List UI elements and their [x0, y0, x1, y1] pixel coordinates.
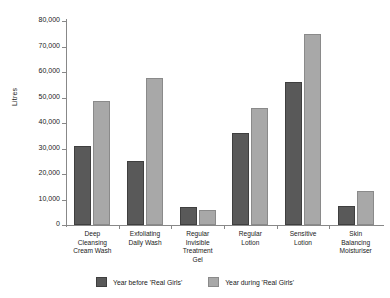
bar [338, 206, 355, 225]
category-label: DeepCleansingCream Wash [66, 230, 119, 264]
y-tick-label: 20,000 [39, 169, 60, 176]
category-label: ExfoliatingDaily Wash [119, 230, 172, 264]
bar [251, 108, 268, 225]
category-label-line: Gel [172, 256, 223, 265]
y-tick-label: 70,000 [39, 42, 60, 49]
category-label-line: Skin [330, 230, 381, 239]
legend-item: Year before 'Real Girls' [96, 277, 182, 287]
category-label-line: Sensitive [278, 230, 329, 239]
bar-group [224, 21, 277, 225]
bar [232, 133, 249, 225]
x-tick-mark [329, 225, 330, 229]
bar-group [277, 21, 330, 225]
bar [146, 78, 163, 225]
y-axis-label: Litres [11, 88, 18, 106]
bar [180, 207, 197, 225]
bar [93, 101, 110, 225]
category-label-line: Regular [225, 230, 276, 239]
category-label-line: Cream Wash [67, 247, 118, 256]
legend-swatch [208, 277, 219, 287]
category-label-line: Moisturiser [330, 247, 381, 256]
bar [357, 191, 374, 225]
bar-chart: Litres 80,00070,00060,00050,00040,00030,… [0, 0, 390, 298]
legend-swatch [96, 277, 107, 287]
bar [285, 82, 302, 225]
bar-group [66, 21, 119, 225]
category-label-line: Deep [67, 230, 118, 239]
category-label-line: Regular [172, 230, 223, 239]
y-tick-label: 30,000 [39, 144, 60, 151]
y-tick-mark [62, 225, 66, 226]
y-tick-label: 60,000 [39, 67, 60, 74]
bar-group [119, 21, 172, 225]
x-axis-category-labels: DeepCleansingCream WashExfoliatingDaily … [66, 230, 382, 264]
x-tick-mark [277, 225, 278, 229]
category-label: RegularInvisibleTreatmentGel [171, 230, 224, 264]
category-label: SkinBalancingMoisturiser [329, 230, 382, 264]
category-label-line: Balancing [330, 239, 381, 248]
bar-group [171, 21, 224, 225]
category-label: SensitiveLotion [277, 230, 330, 264]
chart-legend: Year before 'Real Girls'Year during 'Rea… [0, 277, 390, 287]
x-tick-mark [119, 225, 120, 229]
category-label-line: Daily Wash [120, 239, 171, 248]
bar [304, 34, 321, 225]
legend-label: Year before 'Real Girls' [113, 279, 182, 286]
x-tick-mark [224, 225, 225, 229]
category-label-line: Lotion [225, 239, 276, 248]
legend-item: Year during 'Real Girls' [208, 277, 294, 287]
bar [199, 210, 216, 225]
category-label-line: Cleansing [67, 239, 118, 248]
bar [74, 146, 91, 225]
y-tick-label: 40,000 [39, 118, 60, 125]
x-tick-mark [171, 225, 172, 229]
y-tick-label: 50,000 [39, 93, 60, 100]
y-tick-label: 0 [56, 220, 60, 227]
category-label-line: Treatment [172, 247, 223, 256]
bar-group [329, 21, 382, 225]
y-tick-label: 10,000 [39, 195, 60, 202]
bar-groups [66, 21, 382, 225]
category-label: RegularLotion [224, 230, 277, 264]
bar [127, 161, 144, 225]
legend-label: Year during 'Real Girls' [225, 279, 294, 286]
category-label-line: Lotion [278, 239, 329, 248]
category-label-line: Exfoliating [120, 230, 171, 239]
y-tick-label: 80,000 [39, 16, 60, 23]
category-label-line: Invisible [172, 239, 223, 248]
